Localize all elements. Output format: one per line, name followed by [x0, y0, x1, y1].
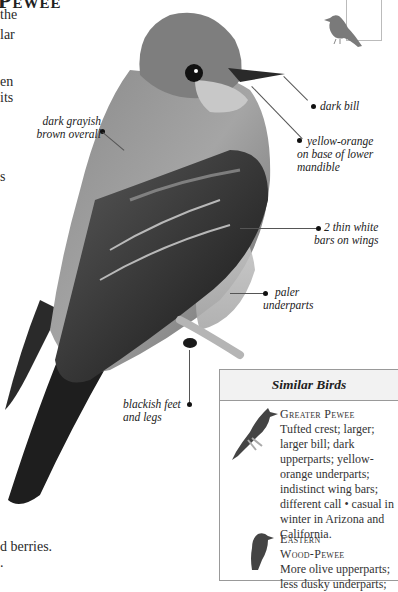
body-text-fragment: . — [0, 553, 4, 572]
similar-bird-entry: Eastern Wood-Pewee More olive upperparts… — [280, 532, 398, 592]
label-line: dark grayish — [28, 115, 101, 128]
similar-bird-name: Greater Pewee — [280, 407, 398, 422]
similar-bird-name: Wood-Pewee — [280, 547, 398, 562]
label-line: on base of lower — [297, 148, 393, 161]
description-line: More olive upperparts; — [280, 562, 398, 577]
label-dark-bill: dark bill — [320, 100, 359, 113]
label-line: brown overall — [28, 128, 101, 141]
description-line: indistinct wing bars; — [280, 482, 398, 497]
description-line: larger bill; dark — [280, 437, 398, 452]
body-text-fragment: d berries. — [0, 537, 52, 556]
bird-silhouette-icon — [322, 12, 364, 50]
label-line: blackish feet — [123, 398, 181, 411]
similar-bird-entry: Greater Pewee Tufted crest; larger; larg… — [280, 407, 398, 542]
label-line: mandible — [297, 161, 393, 174]
description-line: orange underparts; — [280, 467, 398, 482]
label-wing-bars: 2 thin white bars on wings — [314, 221, 394, 247]
leader-dot — [311, 104, 316, 109]
description-line: Tufted crest; larger; — [280, 422, 398, 437]
label-underparts: paler underparts — [263, 286, 343, 312]
label-line: bars on wings — [314, 234, 394, 247]
label-yellow-orange: yellow-orange on base of lower mandible — [297, 135, 393, 174]
label-line: and legs — [123, 411, 181, 424]
label-feet: blackish feet and legs — [123, 398, 181, 424]
leader-dot — [187, 402, 192, 407]
description-line: less dusky underparts; — [280, 577, 398, 592]
label-line: 2 thin white — [314, 221, 394, 234]
label-line: underparts — [263, 299, 343, 312]
similar-bird-name: Eastern — [280, 532, 398, 547]
label-dark-grayish-brown: dark grayish brown overall — [28, 115, 101, 141]
eastern-wood-pewee-thumbnail — [240, 530, 276, 570]
leader-line — [240, 228, 316, 229]
description-line: upperparts; yellow- — [280, 452, 398, 467]
description-line: different call • casual in — [280, 497, 398, 512]
similar-birds-heading: Similar Birds — [220, 370, 398, 401]
leader-line — [189, 350, 190, 405]
similar-birds-panel: Similar Birds Greater Pewee Tufted crest… — [219, 369, 398, 581]
description-line: winter in Arizona and — [280, 512, 398, 527]
label-line: paler — [263, 286, 343, 299]
label-line: yellow-orange — [297, 135, 393, 148]
leader-line — [230, 293, 264, 294]
greater-pewee-thumbnail — [228, 406, 280, 462]
